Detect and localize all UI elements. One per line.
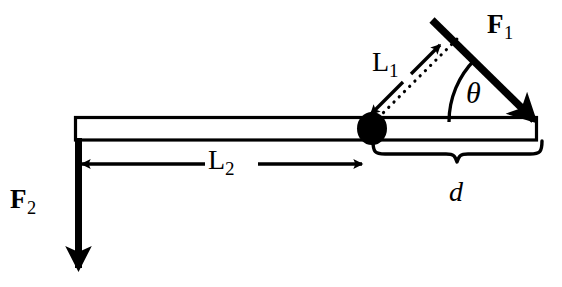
angle-label: θ <box>466 78 481 108</box>
pivot-point <box>357 112 387 145</box>
force-diagram-figure: F1 F2 L1 L2 θ d <box>0 0 562 287</box>
horizontal-beam <box>76 118 537 141</box>
force-2-label: F2 <box>10 186 37 213</box>
force-1-arrow <box>432 20 534 120</box>
force-1-label: F1 <box>487 11 514 38</box>
diagram-canvas <box>0 0 562 287</box>
distance-label: d <box>449 178 463 206</box>
distance-brace <box>373 141 542 162</box>
length-1-label: L1 <box>372 48 399 76</box>
length-2-label: L2 <box>208 146 235 174</box>
